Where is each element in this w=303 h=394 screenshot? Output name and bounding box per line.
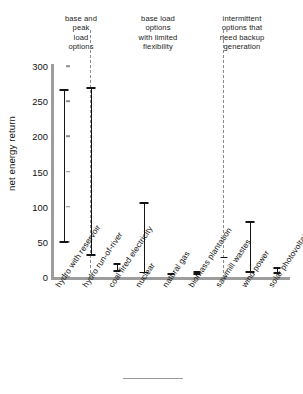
group-divider	[223, 30, 224, 278]
range-bar	[64, 89, 65, 243]
range-bar-cap-low	[194, 273, 201, 275]
range-bar	[91, 87, 92, 256]
range-bar-cap-high	[246, 221, 255, 223]
y-tick-label: 100	[20, 201, 48, 212]
y-tick-label: 200	[20, 131, 48, 142]
range-bar-cap-high	[167, 273, 174, 275]
range-bar-cap-high	[273, 267, 280, 269]
y-tick-label: 0	[20, 272, 48, 283]
range-bar-cap-low	[86, 254, 95, 256]
range-bar-cap-low	[114, 270, 121, 272]
y-tick-label: 150	[20, 166, 48, 177]
range-bar-cap-high	[220, 257, 227, 259]
range-bar-cap-low	[273, 272, 280, 274]
y-axis-ticks: 300250200150100500	[18, 66, 48, 277]
range-bar	[250, 221, 251, 273]
range-bar-cap-low	[139, 272, 148, 274]
range-bar-cap-low	[60, 241, 69, 243]
range-bar-cap-high	[60, 89, 69, 91]
group-header-base-load: base load options with limited flexibili…	[122, 14, 194, 52]
y-axis-label: net energy return	[6, 99, 17, 209]
bottom-rule	[123, 378, 183, 379]
y-tick-label: 50	[20, 236, 48, 247]
energy-return-chart: base and peak load options base load opt…	[0, 0, 303, 394]
group-header-intermittent: intermittent options that need backup ge…	[204, 14, 280, 52]
range-bar-cap-high	[86, 87, 95, 89]
range-bar-cap-low	[246, 271, 255, 273]
range-bar-cap-high	[139, 202, 148, 204]
range-bar-cap-high	[114, 263, 121, 265]
y-tick-label: 300	[20, 61, 48, 72]
y-tick-label: 250	[20, 96, 48, 107]
range-bar	[144, 202, 145, 274]
group-header-peak-load: base and peak load options	[50, 14, 112, 52]
